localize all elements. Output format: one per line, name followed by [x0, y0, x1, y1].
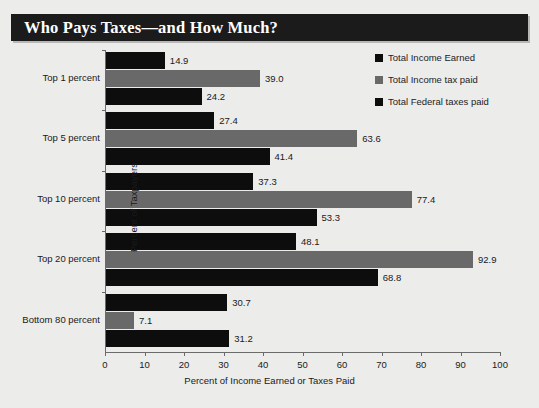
- bar: [106, 70, 260, 87]
- bar-row: 41.4: [106, 148, 500, 165]
- y-axis-tick: [102, 50, 106, 51]
- x-axis-tick: [421, 352, 422, 356]
- bar-value-label: 39.0: [265, 73, 284, 84]
- y-axis-tick: [102, 171, 106, 172]
- bar-group: Top 5 percent27.463.641.4: [106, 112, 500, 166]
- bar-group: Bottom 80 percent30.77.131.2: [106, 294, 500, 348]
- bar-value-label: 14.9: [170, 55, 189, 66]
- title-banner: Who Pays Taxes—and How Much?: [11, 14, 528, 41]
- x-axis-tick-label: 60: [327, 359, 357, 370]
- x-axis-tick-label: 30: [209, 359, 239, 370]
- y-axis-tick: [102, 292, 106, 293]
- bar: [106, 52, 165, 69]
- bar-value-label: 27.4: [219, 115, 238, 126]
- bar-group: Top 10 percent37.377.453.3: [106, 173, 500, 227]
- bar-value-label: 7.1: [139, 315, 152, 326]
- bar-value-label: 92.9: [478, 254, 497, 265]
- y-axis-tick: [102, 231, 106, 232]
- bar-row: 24.2: [106, 88, 500, 105]
- bar-value-label: 63.6: [362, 133, 381, 144]
- plot-area: Top 1 percent14.939.024.2Top 5 percent27…: [105, 50, 500, 352]
- x-axis-tick-label: 100: [485, 359, 515, 370]
- bar: [106, 112, 214, 129]
- category-label: Top 5 percent: [5, 132, 100, 143]
- x-axis-tick: [382, 352, 383, 356]
- bar-row: 39.0: [106, 70, 500, 87]
- bar-row: 30.7: [106, 294, 500, 311]
- bar-row: 77.4: [106, 191, 500, 208]
- bar-value-label: 77.4: [417, 194, 436, 205]
- bar: [106, 130, 357, 147]
- bar: [106, 191, 412, 208]
- chart-page: Who Pays Taxes—and How Much? Total Incom…: [0, 0, 539, 408]
- category-label: Top 10 percent: [5, 193, 100, 204]
- x-axis-tick-label: 20: [169, 359, 199, 370]
- bar-row: 7.1: [106, 312, 500, 329]
- bar: [106, 269, 378, 286]
- page-title: Who Pays Taxes—and How Much?: [24, 18, 278, 38]
- category-label: Top 20 percent: [5, 253, 100, 264]
- bar: [106, 312, 134, 329]
- x-axis-tick-label: 40: [248, 359, 278, 370]
- bar-row: 92.9: [106, 251, 500, 268]
- category-label: Top 1 percent: [5, 72, 100, 83]
- x-axis-tick: [303, 352, 304, 356]
- x-axis-tick: [145, 352, 146, 356]
- bar: [106, 251, 473, 268]
- bar: [106, 294, 227, 311]
- bar-row: 53.3: [106, 209, 500, 226]
- bar: [106, 88, 202, 105]
- bar-row: 37.3: [106, 173, 500, 190]
- y-axis-tick: [102, 110, 106, 111]
- x-axis-tick: [224, 352, 225, 356]
- x-axis-tick: [263, 352, 264, 356]
- y-axis-title: Percent of Taxpayers: [128, 148, 139, 268]
- bar-value-label: 53.3: [322, 212, 341, 223]
- bar-value-label: 30.7: [232, 297, 251, 308]
- bar-value-label: 48.1: [301, 236, 320, 247]
- bar-value-label: 37.3: [258, 176, 277, 187]
- bar-row: 14.9: [106, 52, 500, 69]
- bar-value-label: 41.4: [275, 151, 294, 162]
- x-axis-tick: [184, 352, 185, 356]
- bar-group: Top 20 percent48.192.968.8: [106, 233, 500, 287]
- x-axis-tick-label: 10: [130, 359, 160, 370]
- bar-row: 31.2: [106, 330, 500, 347]
- x-axis-title: Percent of Income Earned or Taxes Paid: [0, 375, 539, 386]
- x-axis-tick: [500, 352, 501, 356]
- bar-row: 27.4: [106, 112, 500, 129]
- bar-value-label: 68.8: [383, 272, 402, 283]
- x-axis-tick-label: 80: [406, 359, 436, 370]
- bar-group: Top 1 percent14.939.024.2: [106, 52, 500, 106]
- bar-row: 48.1: [106, 233, 500, 250]
- category-label: Bottom 80 percent: [5, 314, 100, 325]
- x-axis-tick-label: 70: [367, 359, 397, 370]
- bar: [106, 330, 229, 347]
- bar-row: 63.6: [106, 130, 500, 147]
- x-axis-tick-label: 50: [288, 359, 318, 370]
- x-axis-tick: [461, 352, 462, 356]
- x-axis-tick-label: 0: [90, 359, 120, 370]
- bar-value-label: 24.2: [207, 91, 226, 102]
- x-axis-tick: [105, 352, 106, 356]
- x-axis-tick-label: 90: [446, 359, 476, 370]
- bar-value-label: 31.2: [234, 333, 253, 344]
- bar-row: 68.8: [106, 269, 500, 286]
- x-axis-tick: [342, 352, 343, 356]
